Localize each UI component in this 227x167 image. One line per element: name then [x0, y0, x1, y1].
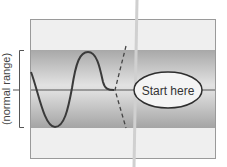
y-axis-label: (normal range) [0, 53, 12, 125]
normal-range-diagram: Start here (normal range) [0, 0, 227, 167]
range-bracket [13, 51, 24, 128]
start-here-label: Start here [142, 84, 195, 98]
